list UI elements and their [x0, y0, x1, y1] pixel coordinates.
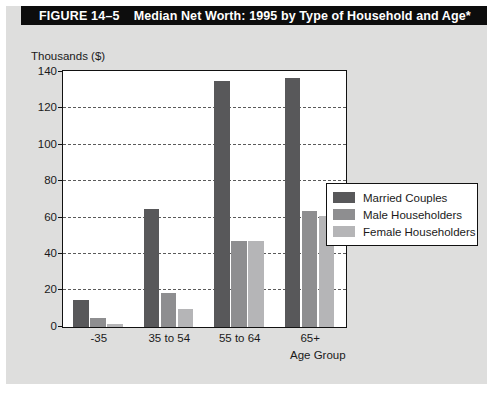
bar: [107, 324, 123, 327]
legend-label: Married Couples: [363, 192, 447, 204]
bar: [73, 300, 89, 327]
x-tick-label: -35: [91, 332, 108, 344]
bar: [214, 81, 230, 327]
y-tick-label: 60: [44, 211, 57, 223]
legend-item: Female Householders: [333, 223, 471, 240]
y-tick-label: 120: [38, 101, 57, 113]
legend-item: Married Couples: [333, 189, 471, 206]
bar: [144, 209, 160, 327]
bar: [178, 309, 194, 327]
legend-item: Male Householders: [333, 206, 471, 223]
figure-number: FIGURE 14–5: [39, 9, 120, 23]
bars-group: [63, 71, 346, 327]
x-tick-label: 65+: [300, 332, 320, 344]
bar: [302, 211, 318, 327]
y-tick-label: 140: [38, 65, 57, 77]
figure-title-bar: FIGURE 14–5 Median Net Worth: 1995 by Ty…: [21, 6, 487, 25]
y-tick-label: 80: [44, 174, 57, 186]
bar: [90, 318, 106, 327]
chart-legend: Married CouplesMale HouseholdersFemale H…: [326, 183, 478, 246]
y-tick-label: 0: [51, 320, 57, 332]
x-axis-title: Age Group: [290, 349, 346, 361]
figure-title: Median Net Worth: 1995 by Type of Househ…: [134, 9, 471, 23]
x-tick-label: 55 to 64: [219, 332, 261, 344]
legend-swatch-icon: [333, 209, 355, 220]
y-tick-label: 100: [38, 138, 57, 150]
legend-swatch-icon: [333, 192, 355, 203]
figure-container: FIGURE 14–5 Median Net Worth: 1995 by Ty…: [0, 0, 493, 401]
plot-area: 020406080100120140: [62, 70, 347, 328]
bar: [161, 293, 177, 327]
y-axis-title: Thousands ($): [31, 50, 105, 62]
y-tick-label: 20: [44, 283, 57, 295]
legend-label: Male Householders: [363, 209, 462, 221]
bar: [285, 78, 301, 327]
y-tick-label: 40: [44, 247, 57, 259]
legend-label: Female Householders: [363, 226, 476, 238]
legend-swatch-icon: [333, 226, 355, 237]
bar: [231, 241, 247, 327]
x-tick-label: 35 to 54: [148, 332, 190, 344]
bar: [248, 241, 264, 327]
